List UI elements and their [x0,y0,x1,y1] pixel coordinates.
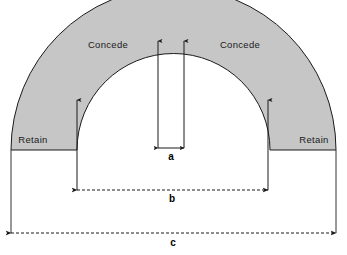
dimension-b-label: b [169,193,175,204]
arch-diagram-canvas: a b c Concede Concede Retain Retain [0,0,347,255]
dimension-c-label: c [170,237,176,248]
arch-dimension-diagram: a b c Concede Concede Retain Retain [0,0,347,255]
region-label-concede-left: Concede [88,39,128,50]
dimension-a-label: a [168,151,174,162]
region-label-retain-right: Retain [299,134,328,145]
region-label-retain-left: Retain [18,134,47,145]
arch-band-shape [11,0,336,150]
region-label-concede-right: Concede [220,39,260,50]
